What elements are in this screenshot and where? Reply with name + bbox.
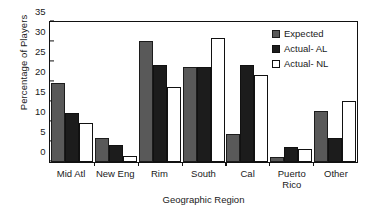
bar — [314, 111, 328, 162]
x-axis-tick-mark — [182, 162, 183, 166]
bar-group — [94, 22, 138, 162]
bar — [79, 123, 93, 162]
bar — [197, 67, 211, 162]
bar — [153, 65, 167, 162]
bar — [254, 75, 268, 162]
x-axis-tick-label: Puerto Rico — [270, 168, 314, 190]
y-axis-tick-label: 20 — [35, 66, 46, 77]
x-axis-tick-label: Rim — [137, 168, 181, 190]
bar-group — [225, 22, 269, 162]
bar — [328, 138, 342, 162]
bar — [211, 38, 225, 162]
x-axis-tick-mark — [94, 162, 95, 166]
x-axis-tick-label: New Eng — [93, 168, 137, 190]
x-axis-tick-label: South — [181, 168, 225, 190]
bar — [240, 65, 254, 162]
y-axis-tick-label: 25 — [35, 46, 46, 57]
y-axis-tick-label: 0 — [40, 146, 45, 157]
y-axis-title: Percentage of Players — [18, 0, 29, 138]
bar — [139, 41, 153, 162]
bar — [342, 101, 356, 162]
bar — [298, 149, 312, 162]
x-axis-tick-label: Cal — [226, 168, 270, 190]
x-axis-tick-label: Mid Atl — [49, 168, 93, 190]
legend-swatch — [272, 60, 280, 68]
bar-group — [182, 22, 226, 162]
legend-label: Actual- AL — [284, 43, 327, 54]
bar — [226, 134, 240, 162]
x-axis-tick-labels: Mid AtlNew EngRimSouthCalPuerto RicoOthe… — [49, 168, 358, 190]
y-axis-tick-label: 35 — [35, 6, 46, 17]
x-axis-tick-label: Other — [314, 168, 358, 190]
y-axis-tick-label: 10 — [35, 106, 46, 117]
legend-item: Expected — [272, 26, 328, 41]
x-axis-tick-mark — [138, 162, 139, 166]
bar-group — [138, 22, 182, 162]
bar — [270, 157, 284, 162]
bar — [109, 145, 123, 162]
bar — [65, 113, 79, 162]
x-axis-tick-mark — [225, 162, 226, 166]
bar-group — [50, 22, 94, 162]
x-axis-title: Geographic Region — [49, 194, 358, 205]
bar — [95, 138, 109, 162]
legend: ExpectedActual- ALActual- NL — [272, 26, 328, 71]
bar — [123, 156, 137, 162]
y-axis-tick-label: 30 — [35, 26, 46, 37]
y-axis-tick-label: 15 — [35, 86, 46, 97]
legend-label: Actual- NL — [284, 58, 328, 69]
bar — [284, 147, 298, 162]
y-axis-tick-label: 5 — [40, 126, 45, 137]
bar — [51, 83, 65, 162]
bar — [167, 87, 181, 162]
x-axis-tick-mark — [269, 162, 270, 166]
bar — [183, 67, 197, 162]
legend-swatch — [272, 45, 280, 53]
bar-chart: Percentage of Players 05101520253035 Mid… — [0, 0, 373, 217]
legend-item: Actual- AL — [272, 41, 328, 56]
legend-item: Actual- NL — [272, 56, 328, 71]
legend-swatch — [272, 30, 280, 38]
x-axis-tick-mark — [313, 162, 314, 166]
legend-label: Expected — [284, 28, 324, 39]
